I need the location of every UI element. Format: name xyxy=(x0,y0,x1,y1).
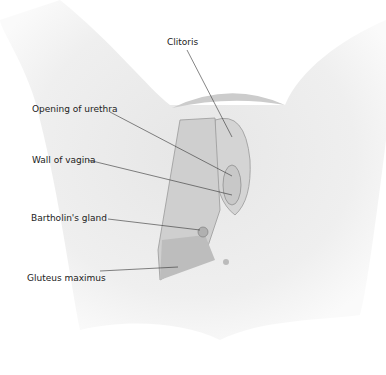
anatomy-diagram: Clitoris Opening of urethra Wall of vagi… xyxy=(0,0,386,375)
illustration xyxy=(0,0,386,375)
label-gluteus-maximus: Gluteus maximus xyxy=(27,273,106,283)
anus xyxy=(223,259,229,265)
label-clitoris: Clitoris xyxy=(167,37,198,47)
vaginal-opening xyxy=(223,165,241,205)
label-vagina-wall: Wall of vagina xyxy=(32,155,96,165)
label-bartholin-gland: Bartholin's gland xyxy=(31,213,107,223)
bartholin-gland xyxy=(198,227,208,237)
label-urethra: Opening of urethra xyxy=(32,104,118,114)
